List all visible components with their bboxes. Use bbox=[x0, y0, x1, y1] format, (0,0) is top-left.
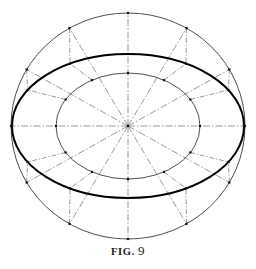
outer-circle-point-90deg bbox=[127, 12, 129, 14]
horizontal-projection-330deg bbox=[190, 153, 228, 163]
inner-circle-point-330deg bbox=[189, 151, 191, 153]
inner-circle-point-180deg bbox=[55, 125, 57, 127]
outer-circle-point-330deg bbox=[228, 181, 230, 183]
ellipse-point-180deg bbox=[11, 125, 13, 127]
outer-circle-point-30deg bbox=[228, 68, 230, 70]
figure-caption-label: FIG. bbox=[111, 246, 135, 257]
vertical-projection-120deg bbox=[70, 28, 71, 64]
ellipse-point-60deg bbox=[185, 63, 187, 65]
outer-circle-point-120deg bbox=[68, 27, 70, 29]
vertical-projection-150deg bbox=[27, 70, 28, 91]
ellipse-point-150deg bbox=[26, 89, 28, 91]
horizontal-projection-60deg bbox=[164, 64, 186, 80]
ellipse-point-270deg bbox=[127, 197, 129, 199]
horizontal-projection-150deg bbox=[28, 90, 66, 100]
vertical-projection-60deg bbox=[186, 28, 187, 64]
ellipse-point-120deg bbox=[69, 63, 71, 65]
horizontal-projection-120deg bbox=[70, 64, 92, 80]
inner-circle-point-120deg bbox=[91, 79, 93, 81]
inner-circle-point-90deg bbox=[127, 72, 129, 74]
outer-circle-point-210deg bbox=[26, 181, 28, 183]
outer-circle-point-270deg bbox=[127, 238, 129, 240]
inner-circle-point-0deg bbox=[199, 125, 201, 127]
ellipse-point-240deg bbox=[69, 187, 71, 189]
outer-circle-point-300deg bbox=[185, 223, 187, 225]
vertical-projection-30deg bbox=[228, 70, 229, 91]
ellipse-point-210deg bbox=[26, 161, 28, 163]
ellipse-construction-diagram bbox=[0, 0, 256, 248]
inner-circle-point-300deg bbox=[163, 171, 165, 173]
vertical-projection-210deg bbox=[27, 162, 28, 183]
outer-circle-point-150deg bbox=[26, 68, 28, 70]
inner-circle-point-60deg bbox=[163, 79, 165, 81]
vertical-projection-300deg bbox=[186, 188, 187, 224]
ellipse-point-90deg bbox=[127, 53, 129, 55]
figure-caption: FIG.9 bbox=[0, 243, 256, 259]
ellipse-point-0deg bbox=[243, 125, 245, 127]
inner-circle-point-270deg bbox=[127, 178, 129, 180]
horizontal-projection-240deg bbox=[70, 172, 92, 188]
inner-circle-point-30deg bbox=[189, 98, 191, 100]
outer-circle-point-240deg bbox=[68, 223, 70, 225]
figure-caption-number: 9 bbox=[138, 243, 145, 258]
horizontal-projection-210deg bbox=[28, 153, 66, 163]
ellipse-point-330deg bbox=[227, 161, 229, 163]
center-point bbox=[127, 125, 129, 127]
inner-circle-point-210deg bbox=[65, 151, 67, 153]
horizontal-projection-30deg bbox=[190, 90, 228, 100]
vertical-projection-240deg bbox=[70, 188, 71, 224]
vertical-projection-330deg bbox=[228, 162, 229, 183]
ellipse-point-30deg bbox=[227, 89, 229, 91]
diagram-root bbox=[10, 12, 246, 240]
ellipse-point-300deg bbox=[185, 187, 187, 189]
figure-page: FIG.9 bbox=[0, 0, 256, 269]
horizontal-projection-300deg bbox=[164, 172, 186, 188]
outer-circle-point-60deg bbox=[185, 27, 187, 29]
inner-circle-point-240deg bbox=[91, 171, 93, 173]
inner-circle-point-150deg bbox=[65, 98, 67, 100]
